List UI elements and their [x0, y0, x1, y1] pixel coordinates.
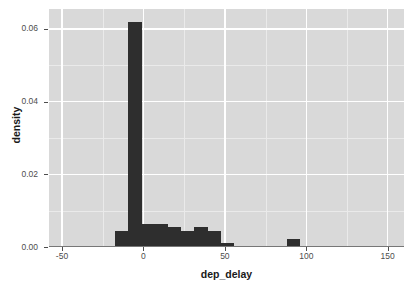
- gridline-major-horizontal: [49, 174, 404, 175]
- gridline-major-vertical: [387, 9, 388, 247]
- chart-figure: 0.000.020.040.06 -50050100150 dep_delay …: [0, 0, 417, 295]
- histogram-bar: [168, 227, 181, 247]
- gridline-major-vertical: [224, 9, 225, 247]
- histogram-bar: [181, 231, 194, 247]
- x-tick-mark: [143, 247, 144, 251]
- y-axis-label: density: [10, 85, 22, 165]
- gridline-major-vertical: [61, 9, 62, 247]
- y-tick-mark: [44, 174, 48, 175]
- histogram-bar: [142, 224, 155, 247]
- y-tick-label: 0.06: [0, 24, 38, 33]
- gridline-major-vertical: [143, 9, 144, 247]
- y-tick-label: 0.02: [0, 170, 38, 179]
- plot-panel: [49, 9, 404, 247]
- gridline-minor-horizontal: [49, 65, 404, 66]
- gridline-major-horizontal: [49, 101, 404, 102]
- x-axis-label: dep_delay: [49, 268, 404, 280]
- x-tick-label: 150: [381, 252, 395, 261]
- y-tick-mark: [44, 247, 48, 248]
- histogram-bar: [208, 231, 221, 247]
- y-tick-mark: [44, 102, 48, 103]
- gridline-major-horizontal: [49, 28, 404, 29]
- gridline-minor-horizontal: [49, 138, 404, 139]
- gridline-minor-horizontal: [49, 211, 404, 212]
- x-tick-label: -50: [56, 252, 68, 261]
- x-tick-label: 0: [141, 252, 146, 261]
- histogram-bar: [128, 22, 141, 247]
- y-tick-mark: [44, 29, 48, 30]
- x-tick-mark: [62, 247, 63, 251]
- x-tick-mark: [388, 247, 389, 251]
- histogram-bar: [115, 231, 128, 247]
- y-tick-label: 0.00: [0, 243, 38, 252]
- x-tick-label: 50: [220, 252, 229, 261]
- x-tick-label: 100: [299, 252, 313, 261]
- gridline-major-vertical: [306, 9, 307, 247]
- x-tick-mark: [225, 247, 226, 251]
- histogram-bar: [155, 224, 168, 247]
- x-tick-mark: [306, 247, 307, 251]
- x-axis-baseline: [49, 246, 404, 247]
- histogram-bar: [194, 227, 207, 247]
